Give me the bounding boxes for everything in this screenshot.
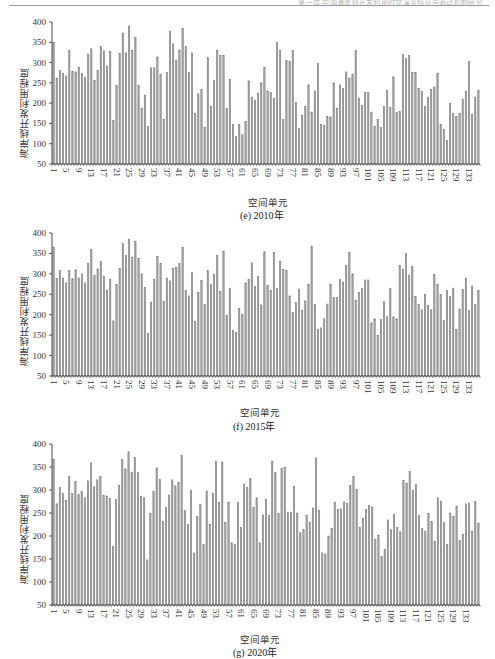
x-tick-label: 37 (162, 168, 172, 178)
bar (113, 321, 114, 376)
bar (364, 280, 365, 376)
x-tick-label: 29 (137, 168, 147, 178)
bar (72, 493, 73, 605)
bar (56, 78, 57, 164)
bar (261, 83, 262, 164)
x-tick-label: 1 (49, 609, 59, 614)
bar (193, 553, 194, 605)
x-tick-label: 89 (323, 609, 333, 619)
bar (262, 515, 263, 605)
y-tick-label: 50 (37, 159, 47, 169)
bar (160, 74, 161, 164)
bar (106, 496, 107, 605)
bar (256, 498, 257, 605)
bar (141, 274, 142, 376)
bar (173, 44, 174, 164)
bar (150, 513, 151, 605)
bar (403, 480, 404, 605)
bar (122, 244, 123, 376)
bar (437, 73, 438, 164)
bar (66, 283, 67, 376)
bar (217, 50, 218, 164)
bar (358, 292, 359, 376)
bar (287, 512, 288, 605)
x-tick-label: 57 (225, 380, 235, 390)
bar (84, 283, 85, 376)
bar (275, 473, 276, 605)
bar (153, 491, 154, 605)
x-tick-label: 129 (451, 168, 461, 182)
bar (240, 527, 241, 605)
x-tick-label: 89 (326, 380, 336, 390)
x-tick-label: 93 (338, 380, 348, 390)
bar (405, 253, 406, 376)
bar (173, 269, 174, 376)
bar (371, 323, 372, 376)
bar (147, 333, 148, 376)
bar (431, 89, 432, 164)
bar (311, 246, 312, 376)
bar (465, 91, 466, 164)
x-tick-label: 85 (313, 168, 323, 178)
bar (113, 121, 114, 164)
bar (226, 315, 227, 376)
bar (132, 257, 133, 376)
y-tick-label: 400 (33, 228, 47, 238)
bar (166, 278, 167, 376)
bar (217, 255, 218, 376)
chart-2015: 5010015020025030035040015913172125293337… (0, 224, 495, 429)
bar (364, 92, 365, 164)
bar (346, 266, 347, 376)
bar (393, 317, 394, 376)
bar (248, 279, 249, 376)
bar (257, 277, 258, 376)
y-tick-label: 350 (33, 248, 47, 258)
bar (172, 480, 173, 605)
bar (81, 274, 82, 376)
bar (267, 91, 268, 164)
bar (106, 290, 107, 376)
bar (325, 554, 326, 605)
bar (247, 488, 248, 605)
bar (69, 271, 70, 376)
bar (109, 498, 110, 605)
bar (168, 495, 169, 605)
bar (320, 328, 321, 376)
bar (437, 498, 438, 605)
bar (81, 491, 82, 605)
bar (324, 319, 325, 376)
bar (303, 530, 304, 605)
bar (103, 276, 104, 376)
chart-caption: (e) 2010年 (240, 207, 284, 222)
x-tick-label: 129 (448, 609, 458, 623)
bar (116, 85, 117, 164)
bar (446, 140, 447, 164)
x-axis-label: 空间单元 (240, 405, 280, 419)
bar (409, 55, 410, 164)
bar (280, 50, 281, 164)
x-tick-label: 133 (464, 168, 474, 182)
bar (405, 59, 406, 164)
bar (245, 121, 246, 164)
bar (447, 544, 448, 605)
bar (372, 507, 373, 605)
bar (195, 322, 196, 376)
bar (352, 75, 353, 164)
x-tick-label: 101 (361, 609, 371, 623)
bar (431, 521, 432, 605)
bar (229, 288, 230, 376)
bar (56, 278, 57, 376)
x-tick-label: 105 (376, 380, 386, 394)
bar (368, 280, 369, 376)
bar (314, 305, 315, 377)
bar (422, 529, 423, 605)
bar (298, 289, 299, 376)
bar (272, 461, 273, 605)
bar (154, 68, 155, 164)
bar (428, 513, 429, 605)
bar (116, 284, 117, 376)
x-tick-label: 97 (348, 609, 358, 619)
bar (381, 557, 382, 605)
bar (97, 269, 98, 376)
bar (81, 73, 82, 164)
